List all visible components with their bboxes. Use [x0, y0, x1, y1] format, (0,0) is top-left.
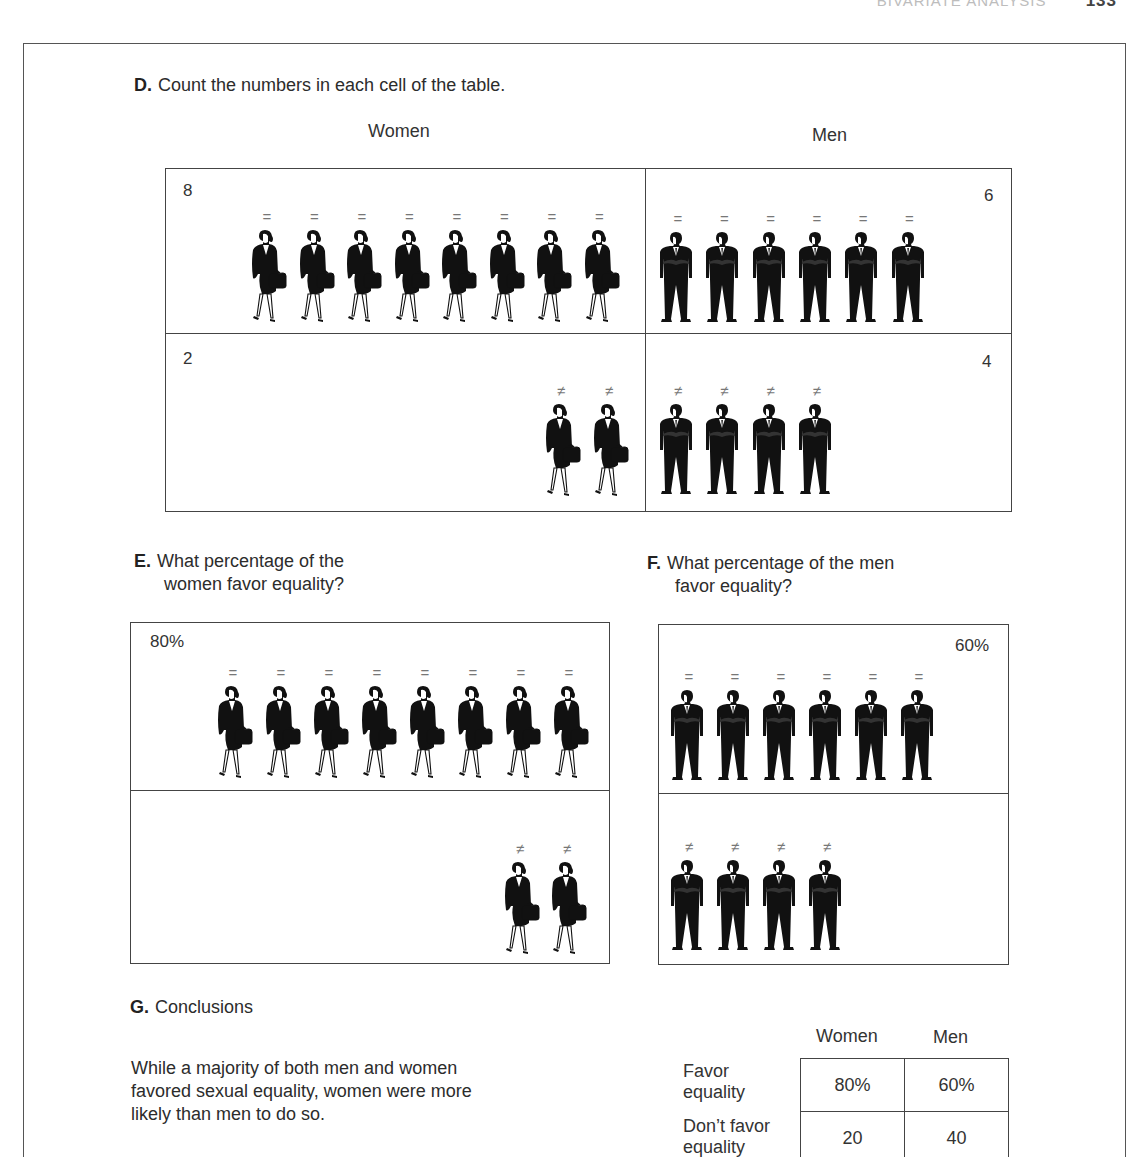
equal-sign-icon: =: [759, 670, 803, 684]
section-d-text: Count the numbers in each cell of the ta…: [158, 75, 505, 95]
g-row-label-not-favor: Don’t favor equality: [683, 1116, 770, 1157]
man-figure-icon: ≠: [805, 840, 849, 960]
section-g-title: G.Conclusions: [130, 996, 253, 1019]
section-d-prompt: D.Count the numbers in each cell of the …: [134, 74, 505, 97]
section-f-prompt: F.What percentage of the men favor equal…: [647, 552, 894, 598]
man-figure-icon: ≠: [656, 384, 700, 504]
man-figure-icon: =: [805, 670, 849, 790]
not-equal-sign-icon: ≠: [713, 840, 757, 854]
table-row: 20 40: [801, 1112, 1009, 1157]
man-figure-icon: =: [702, 212, 746, 332]
count-women-not-favor: 2: [183, 349, 192, 369]
man-figure-icon: =: [841, 212, 885, 332]
equal-sign-icon: =: [888, 212, 932, 226]
woman-figure-icon: =: [307, 666, 351, 786]
section-e-prompt: E.What percentage of the women favor equ…: [134, 550, 344, 596]
not-equal-sign-icon: ≠: [749, 384, 793, 398]
woman-figure-icon: =: [547, 666, 591, 786]
man-figure-icon: ≠: [759, 840, 803, 960]
men-favor-percent: 60%: [955, 636, 989, 656]
column-header-women: Women: [368, 121, 430, 142]
g-row-label-favor: Favor equality: [683, 1061, 745, 1103]
percentage-summary-table: 80% 60% 20 40: [800, 1058, 1009, 1157]
not-equal-sign-icon: ≠: [805, 840, 849, 854]
section-g-letter: G.: [130, 997, 149, 1017]
count-men-favor: 6: [984, 186, 993, 206]
not-equal-sign-icon: ≠: [545, 842, 589, 856]
count-women-favor: 8: [183, 181, 192, 201]
women-box-divider: [130, 790, 610, 791]
equal-sign-icon: =: [749, 212, 793, 226]
page-header: BIVARIATE ANALYSIS 133: [877, 0, 1117, 7]
men-box-divider: [658, 793, 1009, 794]
women-favor-percent: 80%: [150, 632, 184, 652]
woman-figure-icon: =: [530, 210, 574, 330]
equal-sign-icon: =: [307, 666, 351, 680]
section-f-text-line2: favor equality?: [675, 576, 792, 596]
woman-figure-icon: ≠: [545, 842, 589, 962]
table-row: 80% 60%: [801, 1059, 1009, 1112]
table-divider-horizontal: [165, 333, 1012, 334]
man-figure-icon: ≠: [749, 384, 793, 504]
column-header-men: Men: [812, 125, 847, 146]
woman-figure-icon: =: [483, 210, 527, 330]
man-figure-icon: =: [713, 670, 757, 790]
section-d-letter: D.: [134, 75, 152, 95]
page-number: 133: [1086, 0, 1117, 7]
not-equal-sign-icon: ≠: [587, 384, 631, 398]
not-equal-sign-icon: ≠: [702, 384, 746, 398]
woman-figure-icon: =: [293, 210, 337, 330]
table-divider-vertical: [645, 168, 646, 512]
man-figure-icon: =: [897, 670, 941, 790]
conclusion-line-2: favored sexual equality, women were more: [131, 1080, 571, 1103]
not-equal-sign-icon: ≠: [759, 840, 803, 854]
woman-figure-icon: ≠: [498, 842, 542, 962]
equal-sign-icon: =: [388, 210, 432, 224]
section-e-text-line2: women favor equality?: [164, 574, 344, 594]
equal-sign-icon: =: [667, 670, 711, 684]
not-equal-sign-icon: ≠: [667, 840, 711, 854]
man-figure-icon: =: [667, 670, 711, 790]
equal-sign-icon: =: [897, 670, 941, 684]
equal-sign-icon: =: [483, 210, 527, 224]
woman-figure-icon: =: [499, 666, 543, 786]
man-figure-icon: =: [759, 670, 803, 790]
g-row-label-not-favor-line1: Don’t favor: [683, 1116, 770, 1137]
man-figure-icon: ≠: [713, 840, 757, 960]
conclusion-paragraph: While a majority of both men and women f…: [131, 1057, 571, 1126]
man-figure-icon: =: [656, 212, 700, 332]
equal-sign-icon: =: [259, 666, 303, 680]
man-figure-icon: ≠: [795, 384, 839, 504]
woman-figure-icon: ≠: [539, 384, 583, 504]
woman-figure-icon: =: [340, 210, 384, 330]
woman-figure-icon: =: [211, 666, 255, 786]
section-f-text-line1: What percentage of the men: [667, 553, 894, 573]
equal-sign-icon: =: [451, 666, 495, 680]
equal-sign-icon: =: [403, 666, 447, 680]
equal-sign-icon: =: [355, 666, 399, 680]
equal-sign-icon: =: [435, 210, 479, 224]
woman-figure-icon: =: [245, 210, 289, 330]
conclusions-heading: Conclusions: [155, 997, 253, 1017]
cell-women-favor: 80%: [801, 1059, 905, 1112]
cell-men-not-favor: 40: [905, 1112, 1009, 1157]
man-figure-icon: =: [888, 212, 932, 332]
equal-sign-icon: =: [293, 210, 337, 224]
equal-sign-icon: =: [245, 210, 289, 224]
g-row-label-not-favor-line2: equality: [683, 1137, 770, 1157]
equal-sign-icon: =: [841, 212, 885, 226]
equal-sign-icon: =: [578, 210, 622, 224]
woman-figure-icon: =: [403, 666, 447, 786]
equal-sign-icon: =: [499, 666, 543, 680]
conclusion-line-3: likely than men to do so.: [131, 1103, 571, 1126]
man-figure-icon: ≠: [702, 384, 746, 504]
man-figure-icon: =: [795, 212, 839, 332]
g-col-header-men: Men: [933, 1027, 968, 1048]
g-col-header-women: Women: [816, 1026, 878, 1047]
man-figure-icon: =: [749, 212, 793, 332]
woman-figure-icon: ≠: [587, 384, 631, 504]
woman-figure-icon: =: [451, 666, 495, 786]
cell-men-favor: 60%: [905, 1059, 1009, 1112]
section-e-letter: E.: [134, 551, 151, 571]
not-equal-sign-icon: ≠: [498, 842, 542, 856]
